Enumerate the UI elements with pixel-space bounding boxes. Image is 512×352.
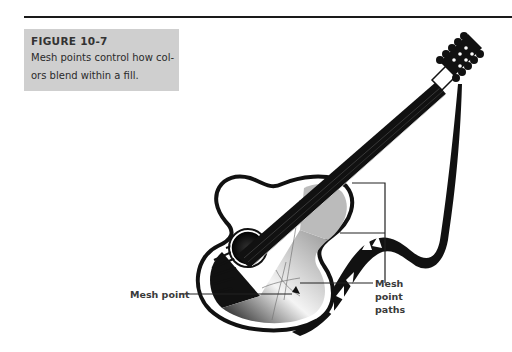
guitar-body	[198, 177, 352, 331]
mesh-paths-label-line-3: paths	[375, 303, 415, 316]
mesh-paths-label-line-2: point	[375, 290, 415, 303]
mesh-point-paths-label: Mesh point paths	[375, 277, 415, 316]
mesh-paths-label-line-1: Mesh	[375, 277, 415, 290]
guitar-illustration	[0, 0, 512, 352]
guitar-neck	[236, 66, 456, 268]
mesh-point-label: Mesh point	[130, 288, 190, 301]
